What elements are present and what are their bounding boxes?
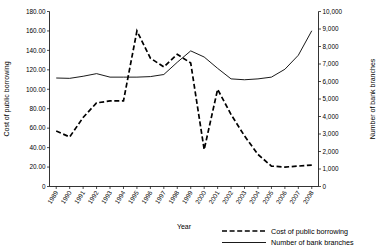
y-axis-right-tick-label: 9,000 xyxy=(323,25,339,32)
y-axis-left-tick-label: 100.00 xyxy=(26,86,46,93)
x-axis-tick-label: 2006 xyxy=(274,189,288,205)
series-line-dashed xyxy=(56,31,312,167)
y-axis-left-tick-label: 180.00 xyxy=(26,8,46,15)
x-axis-tick-label: 2004 xyxy=(248,189,262,205)
x-axis-tick-label: 2003 xyxy=(234,189,248,205)
series-layer xyxy=(56,31,312,167)
y-axis-left-tick-label: 80.00 xyxy=(30,105,46,112)
y-axis-left-tick-label: 140.00 xyxy=(26,47,46,54)
x-axis-tick-label: 1992 xyxy=(86,189,100,205)
y-axis-right-tick-label: 8,000 xyxy=(323,43,339,50)
x-axis-tick-label: 1989 xyxy=(46,189,60,205)
y-axis-right-tick-label: 1,000 xyxy=(323,165,339,172)
y-axis-left-tick-label: 60.00 xyxy=(30,124,46,131)
y-axis-left-tick-label: 40.00 xyxy=(30,144,46,151)
y-axis-left-ticks: 020.0040.0060.0080.00100.00120.00140.001… xyxy=(26,8,50,190)
x-axis-tick-label: 1996 xyxy=(140,189,154,205)
x-axis-ticks: 1989199019911992199319941995199619971998… xyxy=(46,187,315,206)
y-axis-left-title: Cost of public borrowing xyxy=(3,61,11,136)
x-axis-tick-label: 2008 xyxy=(301,189,315,205)
x-axis-tick-label: 1995 xyxy=(127,189,141,205)
x-axis-tick-label: 2001 xyxy=(207,189,221,205)
x-axis-tick-label: 1999 xyxy=(180,189,194,205)
dual-axis-line-chart: 020.0040.0060.0080.00100.00120.00140.001… xyxy=(0,0,384,252)
y-axis-right-tick-label: 2,000 xyxy=(323,148,339,155)
x-axis-tick-label: 1997 xyxy=(153,189,167,205)
x-axis-title: Year xyxy=(177,223,192,230)
x-axis-tick-label: 2005 xyxy=(261,189,275,205)
y-axis-right-tick-label: 7,000 xyxy=(323,60,339,67)
legend-label-1: Cost of public borrowing xyxy=(271,227,348,236)
legend-label-2: Number of bank branches xyxy=(271,238,354,247)
x-axis-tick-label: 2002 xyxy=(221,189,235,205)
chart-legend: Cost of public borrowingNumber of bank b… xyxy=(222,227,354,248)
y-axis-right-tick-label: 3,000 xyxy=(323,130,339,137)
y-axis-left-tick-label: 20.00 xyxy=(30,163,46,170)
x-axis-tick-label: 2007 xyxy=(288,189,302,205)
x-axis-tick-label: 1991 xyxy=(73,189,87,205)
y-axis-left-tick-label: 160.00 xyxy=(26,27,46,34)
x-axis-tick-label: 1990 xyxy=(59,189,73,205)
y-axis-right-tick-label: 0 xyxy=(323,183,327,190)
y-axis-right-tick-label: 5,000 xyxy=(323,95,339,102)
chart-container: 020.0040.0060.0080.00100.00120.00140.001… xyxy=(0,0,384,252)
y-axis-right-tick-label: 10,000 xyxy=(323,8,343,15)
series-line-solid xyxy=(56,31,312,80)
x-axis-tick-label: 1994 xyxy=(113,189,127,205)
y-axis-left-tick-label: 120.00 xyxy=(26,66,46,73)
y-axis-right-title: Number of bank branches xyxy=(369,58,376,139)
y-axis-right-ticks: 01,0002,0003,0004,0005,0006,0007,0008,00… xyxy=(319,8,343,190)
y-axis-left-tick-label: 0 xyxy=(42,183,46,190)
y-axis-right-tick-label: 4,000 xyxy=(323,113,339,120)
x-axis-tick-label: 1993 xyxy=(100,189,114,205)
y-axis-right-tick-label: 6,000 xyxy=(323,78,339,85)
x-axis-tick-label: 1998 xyxy=(167,189,181,205)
x-axis-tick-label: 2000 xyxy=(194,189,208,205)
